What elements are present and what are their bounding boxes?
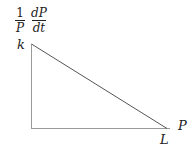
growth-rate-line xyxy=(32,44,168,129)
plot-area xyxy=(0,0,193,153)
